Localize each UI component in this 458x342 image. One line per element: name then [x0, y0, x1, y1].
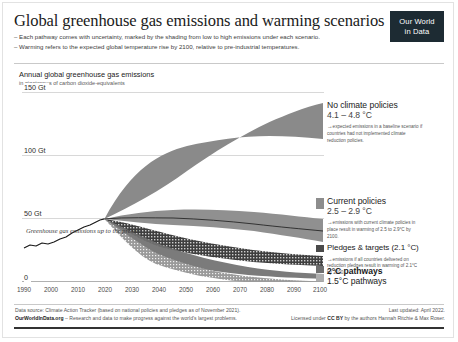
annotation-label-no-climate-policies: No climate policies: [327, 100, 423, 110]
license-text: Licensed under CC BY by the authors Hann…: [291, 315, 445, 323]
footer-bottom-rule: [14, 327, 444, 329]
annotation-current-policies: Current policies 2.5 – 2.9 °C →emissions…: [327, 196, 423, 240]
subtitle-block: – Each pathway comes with uncertainty, m…: [14, 32, 444, 52]
footer-row-1: Data source: Climate Action Tracker (bas…: [15, 307, 445, 315]
swatch-one-five-degree: [316, 274, 324, 281]
license-suffix: by the authors Hannah Ritchie & Max Rose…: [344, 315, 445, 321]
annotation-temperature-pathways: 2°C pathways 1.5°C pathways: [327, 266, 387, 286]
annotation-desc-text-current-policies: emissions with current climate policies …: [327, 220, 415, 239]
band-no-climate-policies: [104, 103, 323, 219]
data-source-text: Data source: Climate Action Tracker (bas…: [15, 307, 240, 315]
x-tick-2100: 2100: [313, 286, 327, 293]
x-tick-2000: 2000: [44, 286, 58, 293]
annotation-temp-current-policies: 2.5 – 2.9 °C: [327, 206, 423, 216]
x-tick-2050: 2050: [179, 286, 193, 293]
footer-row-2: OurWorldInData.org – Research and data t…: [15, 315, 445, 323]
annotation-temp-no-climate-policies: 4.1 – 4.8 °C: [327, 110, 423, 120]
footer-divider: [14, 304, 444, 305]
page-title: Global greenhouse gas emissions and warm…: [14, 12, 444, 29]
y-axis-title-main: Annual global greenhouse gas emissions: [19, 70, 154, 79]
x-tick-2080: 2080: [260, 286, 274, 293]
last-updated-text: Last updated: April 2022.: [389, 307, 445, 315]
x-tick-2090: 2090: [287, 286, 301, 293]
header-divider: [14, 63, 444, 64]
license-name[interactable]: CC BY: [327, 315, 343, 321]
x-tick-2060: 2060: [206, 286, 220, 293]
license-prefix: Licensed under: [291, 315, 326, 321]
x-tick-1990: 1990: [17, 286, 31, 293]
logo-line-1: Our World: [399, 17, 434, 26]
swatch-pledges-targets: [316, 245, 324, 252]
annotation-label-current-policies: Current policies: [327, 196, 423, 206]
logo-line-2: in Data: [405, 27, 430, 36]
owid-site-name: OurWorldInData.org: [15, 315, 64, 321]
x-axis: 1990 2000 2010 2020 2030 2040 2050 2060 …: [22, 286, 324, 298]
owid-attribution[interactable]: OurWorldInData.org – Research and data t…: [15, 315, 237, 323]
x-tick-2070: 2070: [233, 286, 247, 293]
annotation-desc-no-climate-policies: →expected emissions in a baseline scenar…: [327, 122, 423, 144]
annotation-label-one-five-degree: 1.5°C pathways: [327, 276, 387, 286]
annotation-desc-current-policies: →emissions with current climate policies…: [327, 218, 423, 240]
x-tick-2020: 2020: [98, 286, 112, 293]
annotation-label-two-degree: 2°C pathways: [327, 266, 387, 276]
x-tick-2010: 2010: [71, 286, 85, 293]
x-tick-2030: 2030: [125, 286, 139, 293]
plot-area: 150 Gt 100 Gt 50 Gt 0: [22, 92, 324, 282]
annotation-desc-text-no-climate-policies: expected emissions in a baseline scenari…: [327, 124, 422, 143]
swatch-two-degree: [316, 266, 324, 273]
subtitle-line-2: – Warming refers to the expected global …: [14, 42, 444, 52]
annotation-label-pledges-targets: Pledges & targets (2.1 °C): [327, 243, 423, 253]
chart-header: Global greenhouse gas emissions and warm…: [14, 12, 444, 52]
chart-canvas: [22, 92, 324, 282]
x-tick-2040: 2040: [152, 286, 166, 293]
chart-footer: Data source: Climate Action Tracker (bas…: [15, 307, 445, 323]
annotation-no-climate-policies: No climate policies 4.1 – 4.8 °C →expect…: [327, 100, 423, 144]
our-world-in-data-logo[interactable]: Our World in Data: [390, 11, 444, 42]
subtitle-line-1: – Each pathway comes with uncertainty, m…: [14, 32, 444, 42]
swatch-current-policies: [316, 198, 324, 209]
y-tick-150: 150 Gt: [24, 83, 49, 92]
chart-page: Global greenhouse gas emissions and warm…: [0, 0, 458, 342]
owid-tagline: – Research and data to make progress aga…: [65, 315, 237, 321]
historical-annotation: Greenhouse gas emissions up to the prese…: [26, 227, 146, 235]
